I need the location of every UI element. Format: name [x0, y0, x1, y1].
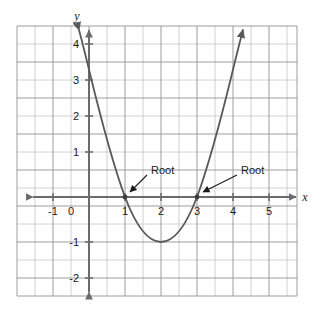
x-tick-label-0: 0	[68, 205, 74, 217]
y-axis-label: y	[73, 9, 80, 23]
graph-figure: -1 0 1 2 3 4 5 -2 -1 1 2 3 4 x y	[0, 0, 320, 312]
annotation-label-root-left: Root	[151, 164, 174, 176]
y-tick-label-4: 4	[73, 38, 79, 50]
y-tick-label--2: -2	[69, 272, 79, 284]
x-tick-label-1: 1	[122, 205, 128, 217]
root-marker-left	[123, 195, 128, 200]
x-tick-label-5: 5	[266, 205, 272, 217]
y-tick-label-3: 3	[73, 74, 79, 86]
x-axis-label: x	[301, 190, 308, 204]
root-marker-right	[195, 195, 200, 200]
annotation-label-root-right: Root	[241, 164, 264, 176]
x-tick-label-2: 2	[158, 205, 164, 217]
x-tick-label-4: 4	[230, 205, 236, 217]
y-tick-label-1: 1	[73, 146, 79, 158]
x-tick-label--1: -1	[48, 205, 58, 217]
y-tick-label-2: 2	[73, 110, 79, 122]
plot-background	[17, 26, 297, 296]
y-tick-label--1: -1	[69, 236, 79, 248]
parabola-graph: -1 0 1 2 3 4 5 -2 -1 1 2 3 4 x y	[0, 0, 320, 312]
x-tick-label-3: 3	[194, 205, 200, 217]
